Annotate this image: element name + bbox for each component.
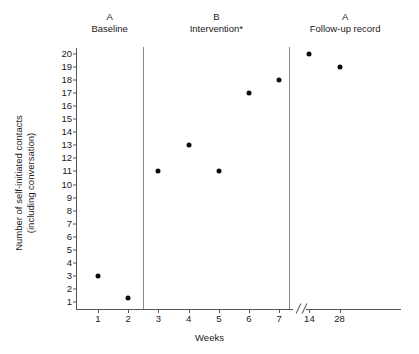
y-axis-tick-mark <box>73 288 76 289</box>
x-axis-tick-label: 5 <box>216 314 221 324</box>
data-point <box>337 65 342 70</box>
data-point <box>186 143 191 148</box>
y-axis-tick-mark <box>73 171 76 172</box>
y-axis-tick-mark <box>73 210 76 211</box>
y-axis-tick-mark <box>73 54 76 55</box>
y-axis-tick-mark <box>73 80 76 81</box>
y-axis-tick-label: 1 <box>54 297 72 307</box>
x-axis-tick-mark <box>158 309 159 313</box>
y-axis-title-wrapper: Number of self-initiated contacts (inclu… <box>10 88 40 278</box>
phase-name: Follow-up record <box>275 23 415 35</box>
data-point <box>247 91 252 96</box>
x-axis-line <box>76 309 401 310</box>
y-axis-tick-mark <box>73 93 76 94</box>
y-axis-tick-label: 11 <box>54 167 72 177</box>
phase-divider-line-1 <box>143 47 144 309</box>
x-axis-tick-mark <box>340 309 341 313</box>
y-axis-tick-label: 5 <box>54 245 72 255</box>
phase-letter: A <box>275 11 415 23</box>
data-point <box>126 296 131 301</box>
data-point <box>216 169 221 174</box>
scatter-chart-figure: A Baseline B Intervention* A Follow-up r… <box>0 0 419 354</box>
y-axis-tick-label: 2 <box>54 284 72 294</box>
x-axis-tick-mark <box>189 309 190 313</box>
x-axis-tick-mark <box>309 309 310 313</box>
y-axis-tick-label: 17 <box>54 88 72 98</box>
data-point <box>307 52 312 57</box>
y-axis-tick-label: 6 <box>54 232 72 242</box>
y-axis-tick-label: 4 <box>54 258 72 268</box>
x-axis-tick-mark <box>249 309 250 313</box>
y-axis-tick-label: 9 <box>54 193 72 203</box>
y-axis-tick-mark <box>73 236 76 237</box>
x-axis-tick-label: 7 <box>277 314 282 324</box>
data-point <box>156 169 161 174</box>
y-axis-line <box>76 48 77 309</box>
y-axis-tick-label: 3 <box>54 271 72 281</box>
y-axis-tick-label: 8 <box>54 206 72 216</box>
x-axis-tick-label: 4 <box>186 314 191 324</box>
y-axis-tick-label: 18 <box>54 75 72 85</box>
x-axis-title-wrapper: Weeks <box>0 332 419 343</box>
y-axis-tick-label: 20 <box>54 49 72 59</box>
y-axis-tick-mark <box>73 119 76 120</box>
phase-letter: B <box>146 11 286 23</box>
x-axis-tick-label: 14 <box>304 314 315 324</box>
x-axis-tick-label: 28 <box>334 314 345 324</box>
phase-divider-line-2 <box>289 47 290 309</box>
y-axis-tick-label: 12 <box>54 154 72 164</box>
x-axis-tick-label: 6 <box>246 314 251 324</box>
y-axis-tick-label: 7 <box>54 219 72 229</box>
y-axis-tick-mark <box>73 262 76 263</box>
y-axis-tick-mark <box>73 197 76 198</box>
y-axis-tick-label: 10 <box>54 180 72 190</box>
data-point <box>96 273 101 278</box>
y-axis-tick-label: 14 <box>54 128 72 138</box>
x-axis-tick-label: 2 <box>126 314 131 324</box>
x-axis-title: Weeks <box>195 332 224 343</box>
y-axis-tick-label: 19 <box>54 62 72 72</box>
x-axis-tick-mark <box>219 309 220 313</box>
phase-header-followup: A Follow-up record <box>275 11 415 34</box>
y-axis-tick-mark <box>73 158 76 159</box>
y-axis-title-line1: Number of self-initiated contacts <box>13 115 25 251</box>
x-axis-tick-mark <box>128 309 129 313</box>
y-axis-tick-mark <box>73 184 76 185</box>
y-axis-tick-mark <box>73 275 76 276</box>
y-axis-title: Number of self-initiated contacts (inclu… <box>13 115 37 251</box>
plot-area: 2019181716151413121110987654321 12345671… <box>76 48 401 309</box>
y-axis-tick-mark <box>73 145 76 146</box>
y-axis-tick-mark <box>73 132 76 133</box>
phase-name: Intervention* <box>146 23 286 35</box>
y-axis-tick-mark <box>73 302 76 303</box>
y-axis-tick-mark <box>73 106 76 107</box>
y-axis-tick-mark <box>73 67 76 68</box>
x-axis-tick-label: 3 <box>156 314 161 324</box>
x-axis-tick-label: 1 <box>95 314 100 324</box>
phase-header-intervention: B Intervention* <box>146 11 286 34</box>
x-axis-tick-mark <box>279 309 280 313</box>
y-axis-tick-mark <box>73 223 76 224</box>
y-axis-tick-label: 13 <box>54 141 72 151</box>
y-axis-title-line2: (including conversation) <box>25 115 37 251</box>
data-point <box>277 78 282 83</box>
y-axis-tick-mark <box>73 249 76 250</box>
x-axis-tick-mark <box>98 309 99 313</box>
y-axis-tick-label: 15 <box>54 115 72 125</box>
y-axis-tick-label: 16 <box>54 101 72 111</box>
